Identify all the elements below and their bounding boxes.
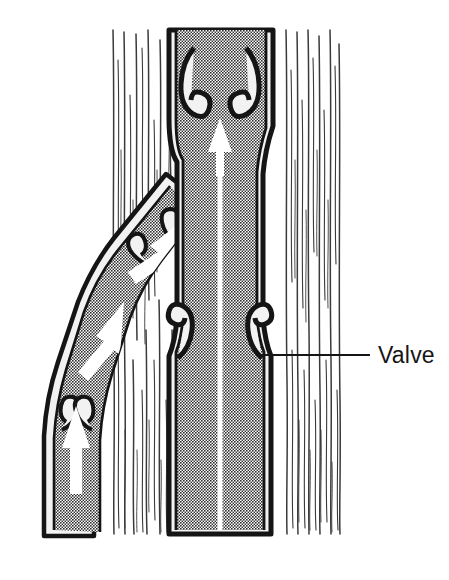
vein-diagram: Valve — [0, 0, 449, 580]
valve-label: Valve — [378, 342, 435, 368]
main-vein — [160, 24, 280, 540]
valve-label-group: Valve — [258, 342, 435, 368]
vein-valve-figure: Valve — [0, 0, 449, 580]
